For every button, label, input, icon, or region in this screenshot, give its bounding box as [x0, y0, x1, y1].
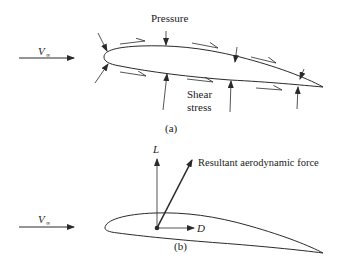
- freestream-subscript-b: ∞: [46, 220, 50, 226]
- shear-label-line2: stress: [187, 101, 211, 113]
- freestream-label-a: V: [38, 45, 46, 57]
- freestream-arrow-a: V ∞: [19, 45, 74, 58]
- freestream-arrow-b: V ∞: [19, 213, 74, 227]
- freestream-subscript-a: ∞: [46, 52, 50, 58]
- shear-label-line1: Shear: [187, 88, 212, 100]
- airfoil-b: [105, 213, 323, 253]
- caption-a: (a): [165, 122, 178, 135]
- resultant-force-arrow: [157, 160, 192, 228]
- lift-label: L: [152, 143, 159, 155]
- figure-a: V ∞ Pressure Shear stress (a): [19, 12, 323, 135]
- resultant-label: Resultant aerodynamic force: [198, 157, 319, 168]
- figure-b: V ∞ L D Resultant aerodynamic force (b): [19, 143, 323, 253]
- freestream-label-b: V: [38, 213, 46, 225]
- shear-arrows: [120, 41, 282, 90]
- airfoil-a: [104, 46, 323, 87]
- drag-label: D: [196, 222, 205, 234]
- pressure-label: Pressure: [151, 12, 188, 24]
- airfoil-force-diagram: V ∞ Pressure Shear stress (a): [0, 0, 339, 270]
- caption-b: (b): [174, 240, 187, 253]
